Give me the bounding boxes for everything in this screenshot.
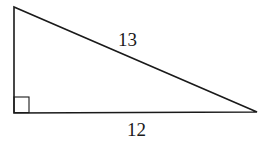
right-angle-marker: [14, 97, 29, 113]
right-triangle: [14, 7, 257, 113]
triangle-diagram: 13 12: [0, 0, 274, 141]
base-label: 12: [127, 119, 146, 140]
hypotenuse-label: 13: [118, 29, 137, 50]
